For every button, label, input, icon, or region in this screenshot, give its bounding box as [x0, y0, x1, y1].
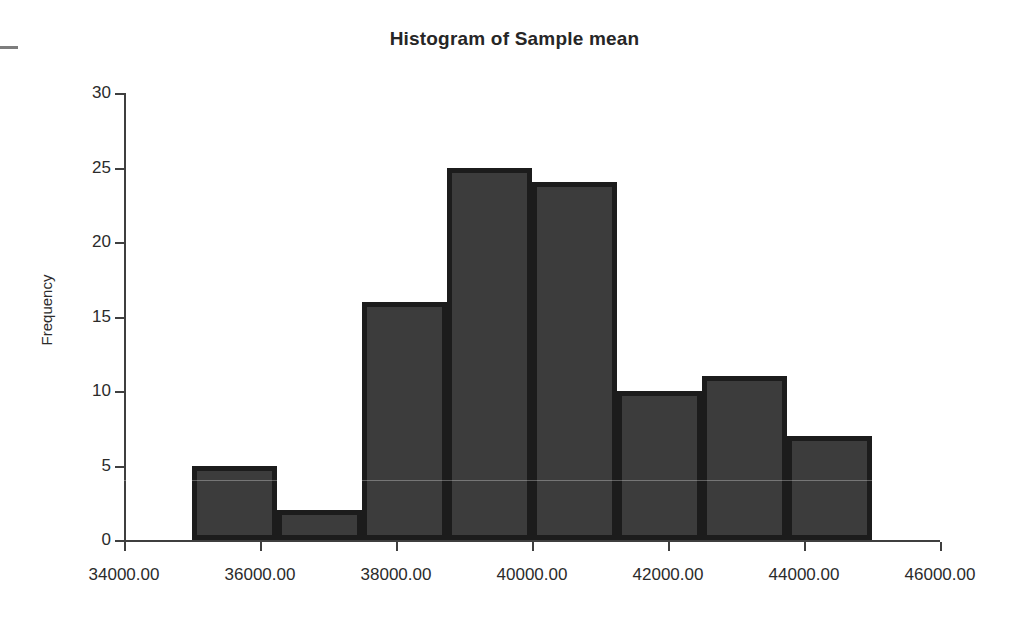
chart-title: Histogram of Sample mean: [0, 28, 1029, 50]
y-tick-mark: [115, 93, 124, 95]
histogram-bar: [362, 302, 447, 540]
y-tick-label: 10: [92, 381, 111, 401]
y-tick-label: 5: [102, 456, 111, 476]
x-tick-label: 36000.00: [225, 565, 296, 585]
y-tick-mark: [115, 540, 124, 542]
histogram-bar: [702, 376, 787, 540]
x-tick-mark: [668, 542, 670, 551]
x-tick-label: 42000.00: [633, 565, 704, 585]
y-tick-label: 15: [92, 307, 111, 327]
histogram-bar: [787, 436, 872, 540]
y-tick-label: 20: [92, 232, 111, 252]
x-tick-label: 46000.00: [905, 565, 976, 585]
plot-area: 051015202530 34000.0036000.0038000.00400…: [124, 93, 940, 541]
y-axis-title: Frequency: [38, 274, 55, 345]
y-tick-label: 0: [102, 530, 111, 550]
y-tick-mark: [115, 168, 124, 170]
x-tick-label: 38000.00: [361, 565, 432, 585]
y-tick-label: 30: [92, 83, 111, 103]
histogram-bar: [447, 168, 532, 541]
histogram-bar: [192, 466, 277, 541]
x-tick-mark: [124, 542, 126, 551]
x-tick-mark: [260, 542, 262, 551]
x-tick-mark: [804, 542, 806, 551]
histogram-bar: [532, 182, 617, 540]
y-tick-mark: [115, 391, 124, 393]
y-tick-label: 25: [92, 158, 111, 178]
histogram-bar: [277, 510, 362, 540]
histogram-chart: Histogram of Sample mean Frequency 05101…: [0, 0, 1029, 619]
x-tick-label: 34000.00: [89, 565, 160, 585]
x-tick-mark: [396, 542, 398, 551]
x-tick-mark: [940, 542, 942, 551]
x-tick-label: 44000.00: [769, 565, 840, 585]
y-tick-mark: [115, 317, 124, 319]
x-tick-mark: [532, 542, 534, 551]
y-tick-mark: [115, 466, 124, 468]
x-tick-label: 40000.00: [497, 565, 568, 585]
histogram-bar: [617, 391, 702, 540]
bars-layer: [124, 93, 940, 540]
y-tick-mark: [115, 242, 124, 244]
